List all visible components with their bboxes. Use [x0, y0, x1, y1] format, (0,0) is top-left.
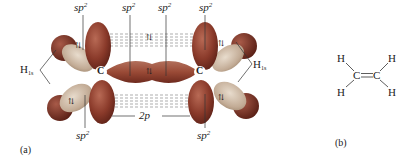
carbon-left: C: [353, 70, 360, 81]
caption-b: (b): [335, 137, 347, 148]
ethylene-bonds: [0, 0, 415, 163]
hydrogen-bottom-right: H: [388, 87, 396, 98]
hydrogen-bottom-left: H: [337, 87, 345, 98]
hydrogen-top-right: H: [388, 53, 396, 64]
hydrogen-top-left: H: [337, 53, 345, 64]
carbon-right: C: [373, 70, 380, 81]
